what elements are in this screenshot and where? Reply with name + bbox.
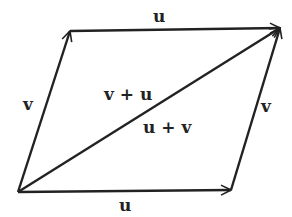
label-left-v: v xyxy=(22,94,34,114)
label-bottom-u: u xyxy=(119,195,131,215)
label-top-u: u xyxy=(153,6,165,26)
vector-u-bottom xyxy=(18,190,231,192)
vector-v-right xyxy=(231,28,280,190)
label-diagonal-v-plus-u: v + u xyxy=(103,84,152,104)
vector-u-top xyxy=(70,28,280,31)
vector-sum-diagonal xyxy=(18,28,280,192)
label-diagonal-u-plus-v: u + v xyxy=(143,117,192,137)
parallelogram-diagram: u u v v v + u u + v xyxy=(0,0,292,217)
label-right-v: v xyxy=(260,96,272,116)
